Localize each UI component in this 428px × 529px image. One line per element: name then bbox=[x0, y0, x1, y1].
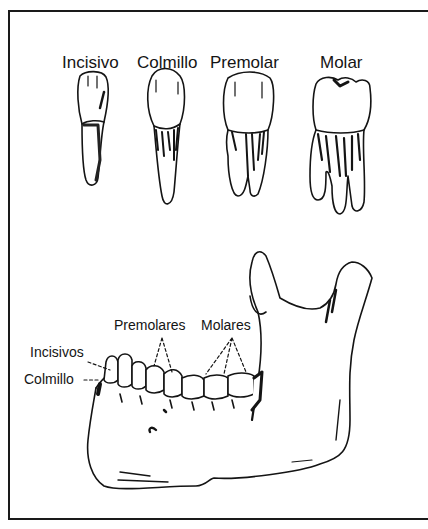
canine-tooth-drawing bbox=[148, 69, 185, 204]
label-incisivo: Incisivo bbox=[62, 54, 119, 71]
premolar-tooth-drawing bbox=[224, 72, 274, 196]
molar-tooth-drawing bbox=[310, 77, 371, 214]
label-molar: Molar bbox=[320, 54, 363, 71]
label-incisivos: Incisivos bbox=[30, 345, 84, 359]
label-molares: Molares bbox=[201, 318, 251, 332]
label-premolar: Premolar bbox=[210, 54, 279, 71]
incisor-tooth-drawing bbox=[78, 72, 108, 185]
label-colmillo-jaw: Colmillo bbox=[24, 372, 74, 386]
label-colmillo: Colmillo bbox=[137, 54, 197, 71]
label-premolares: Premolares bbox=[114, 318, 186, 332]
